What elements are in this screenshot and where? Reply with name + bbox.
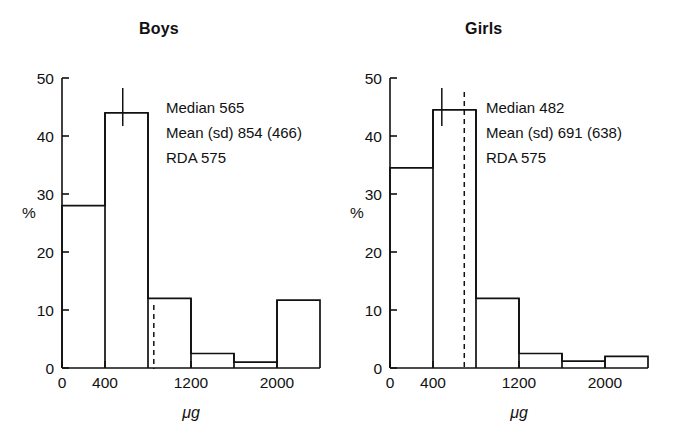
x-tick-label: 2000: [588, 374, 623, 391]
annotation-line: Median 565: [166, 99, 244, 116]
figure-root: Boys 01020304050%040012002000μgMedian 56…: [0, 0, 679, 435]
x-axis-unit-label: μg: [509, 404, 528, 421]
y-tick-label: 30: [37, 186, 55, 203]
y-tick-label: 20: [37, 244, 55, 261]
y-axis-label: %: [22, 204, 36, 221]
y-tick-label: 50: [365, 70, 383, 87]
histogram-boys: 01020304050%040012002000μgMedian 565Mean…: [0, 0, 339, 435]
chart-panel-boys: Boys 01020304050%040012002000μgMedian 56…: [0, 0, 339, 435]
y-tick-label: 50: [37, 70, 55, 87]
y-tick-label: 20: [365, 244, 383, 261]
x-tick-label: 1200: [502, 374, 537, 391]
y-tick-label: 10: [365, 302, 383, 319]
y-tick-label: 40: [37, 128, 55, 145]
annotation-line: Mean (sd) 691 (638): [486, 124, 622, 141]
x-tick-label: 400: [92, 374, 118, 391]
annotation-line: RDA 575: [486, 149, 546, 166]
x-tick-label: 1200: [174, 374, 209, 391]
chart-panel-girls: Girls 01020304050%040012002000μgMedian 4…: [340, 0, 679, 435]
annotation-line: Mean (sd) 854 (466): [166, 124, 302, 141]
histogram-girls: 01020304050%040012002000μgMedian 482Mean…: [340, 0, 679, 435]
x-axis-unit-label: μg: [181, 404, 200, 421]
y-tick-label: 0: [45, 360, 54, 377]
y-axis-label: %: [350, 204, 364, 221]
x-tick-label: 0: [58, 374, 67, 391]
y-tick-label: 0: [373, 360, 382, 377]
y-tick-label: 40: [365, 128, 383, 145]
y-tick-label: 30: [365, 186, 383, 203]
x-tick-label: 2000: [260, 374, 295, 391]
x-tick-label: 0: [386, 374, 395, 391]
annotation-line: RDA 575: [166, 149, 226, 166]
annotation-line: Median 482: [486, 99, 564, 116]
x-tick-label: 400: [420, 374, 446, 391]
y-tick-label: 10: [37, 302, 55, 319]
